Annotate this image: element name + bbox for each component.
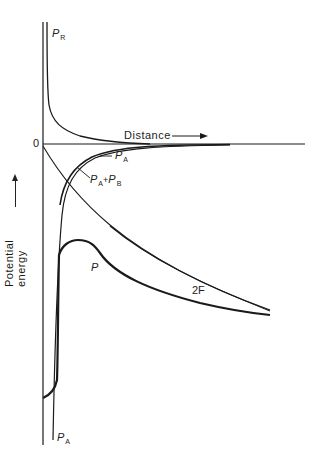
label-pa-lower: PA [57, 432, 70, 445]
label-papb-main2: P [108, 173, 115, 185]
y-axis-label-text: Potential energy [3, 211, 27, 287]
label-pa-upper: PA [115, 150, 128, 163]
curve-2f-outer [43, 146, 270, 310]
curve-2f-inner [110, 226, 270, 311]
distance-arrow-head [200, 133, 208, 139]
label-pa-lower-sub: A [65, 438, 70, 445]
label-papb-sub2: B [117, 180, 122, 187]
curve-p [43, 240, 270, 398]
y-axis-arrow-icon [15, 177, 16, 207]
label-pa-pb: PA+PB [90, 174, 121, 187]
label-pa-main: P [115, 149, 122, 161]
label-p: P [91, 262, 98, 273]
label-pr-main: P [52, 27, 59, 39]
label-pa-sub: A [123, 156, 128, 163]
y-axis-label: Potential energy [8, 177, 22, 287]
potential-energy-diagram [0, 0, 316, 460]
origin-label: 0 [33, 138, 39, 149]
label-2f: 2F [192, 285, 205, 296]
x-axis-label: Distance [124, 130, 171, 141]
leader-pa-pb [78, 168, 90, 178]
label-pa-lower-main: P [57, 431, 64, 443]
label-pr-sub: R [60, 34, 65, 41]
label-pr: PR [52, 28, 65, 41]
label-papb-main: P [90, 173, 97, 185]
